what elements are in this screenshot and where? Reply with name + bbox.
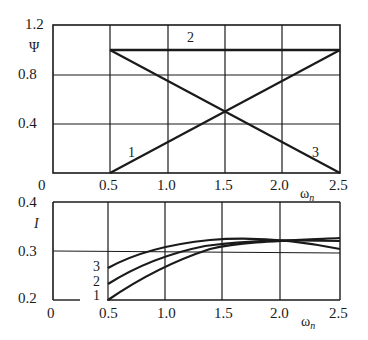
upper-xtick-2.5: 2.5 — [329, 177, 348, 193]
lower-xtick-2.0: 2.0 — [270, 305, 289, 321]
upper-xtick-2.0: 2.0 — [270, 177, 289, 193]
upper-ylabel: Ψ — [29, 40, 40, 55]
lower-curve-1 — [108, 238, 340, 300]
upper-plot — [53, 25, 340, 173]
lower-curve-label-1: 1 — [93, 288, 100, 303]
lower-xtick-2.5: 2.5 — [329, 305, 348, 321]
upper-xtick-0: 0 — [38, 177, 46, 193]
lower-xtick-1.0: 1.0 — [157, 305, 176, 321]
lower-xtick-1.5: 1.5 — [214, 305, 233, 321]
lower-ytick-0.4: 0.4 — [18, 194, 37, 210]
upper-ytick-0.8: 0.8 — [18, 66, 37, 82]
lower-ytick-0.2: 0.2 — [18, 290, 37, 306]
upper-xlabel: ωn — [300, 186, 314, 203]
lower-curve-label-3: 3 — [93, 259, 100, 274]
upper-xtick-1.5: 1.5 — [214, 177, 233, 193]
upper-curve-label-1: 1 — [128, 145, 135, 160]
lower-xtick-0.5: 0.5 — [99, 305, 118, 321]
upper-curve-label-3: 3 — [312, 145, 319, 160]
lower-ylabel: I — [33, 216, 40, 231]
upper-xtick-0.5: 0.5 — [99, 177, 118, 193]
chart-canvas: 1.2 Ψ 0.8 0.4 1 2 3 0 0.5 1.0 1.5 2.0 2.… — [0, 0, 368, 340]
upper-ytick-1.2: 1.2 — [25, 16, 44, 32]
upper-curve-label-2: 2 — [187, 30, 194, 45]
lower-ytick-0.3: 0.3 — [18, 243, 37, 259]
lower-curve-label-2: 2 — [93, 274, 100, 289]
lower-xtick-0: 0 — [47, 305, 55, 321]
lower-xlabel: ωn — [301, 314, 315, 331]
upper-ytick-0.4: 0.4 — [18, 115, 37, 131]
upper-xtick-1.0: 1.0 — [157, 177, 176, 193]
